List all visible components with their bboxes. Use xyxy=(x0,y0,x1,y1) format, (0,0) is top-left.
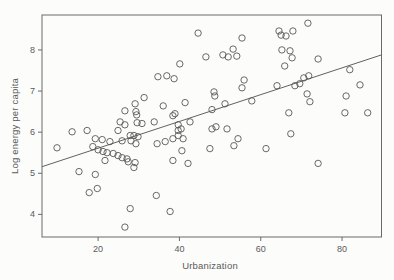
data-point xyxy=(195,30,201,36)
data-point xyxy=(177,61,183,67)
y-axis-label: Log energy per capita xyxy=(9,78,20,174)
data-point xyxy=(304,91,310,97)
data-point xyxy=(171,76,177,82)
data-point xyxy=(94,185,100,191)
data-point xyxy=(122,224,128,230)
data-point xyxy=(153,192,159,198)
data-point xyxy=(104,150,110,156)
y-tick-label: 7 xyxy=(30,86,35,96)
data-point xyxy=(141,94,147,100)
data-point xyxy=(307,99,313,105)
data-point xyxy=(127,205,133,211)
data-point xyxy=(287,48,293,54)
scatter-plot: 2040608045678 xyxy=(0,0,394,280)
data-point xyxy=(235,136,241,142)
x-tick-label: 60 xyxy=(256,244,266,254)
data-point xyxy=(182,99,188,105)
data-point xyxy=(154,141,160,147)
data-point xyxy=(69,129,75,135)
data-point xyxy=(151,119,157,125)
x-tick-label: 40 xyxy=(174,244,184,254)
data-point xyxy=(343,93,349,99)
data-point xyxy=(357,82,363,88)
y-tick-label: 8 xyxy=(30,45,35,55)
data-point xyxy=(102,157,108,163)
data-point xyxy=(180,136,186,142)
data-point xyxy=(241,77,247,83)
data-point xyxy=(234,53,240,59)
data-point xyxy=(54,145,60,151)
data-point xyxy=(132,101,138,107)
data-point xyxy=(185,160,191,166)
data-point xyxy=(249,98,255,104)
data-point xyxy=(315,56,321,62)
data-point xyxy=(207,145,213,151)
data-point xyxy=(133,141,139,147)
data-point xyxy=(290,28,296,34)
data-point xyxy=(86,189,92,195)
x-tick-label: 80 xyxy=(337,244,347,254)
y-tick-label: 6 xyxy=(30,127,35,137)
data-point xyxy=(179,148,185,154)
data-point xyxy=(224,126,230,132)
data-point xyxy=(288,131,294,137)
data-point xyxy=(92,171,98,177)
data-point xyxy=(279,47,285,53)
data-point xyxy=(315,160,321,166)
data-point xyxy=(164,73,170,79)
data-point xyxy=(213,124,219,130)
data-point xyxy=(170,157,176,163)
data-point xyxy=(263,145,269,151)
data-point xyxy=(289,55,295,61)
data-point xyxy=(239,35,245,41)
data-point xyxy=(99,136,105,142)
data-point xyxy=(155,74,161,80)
data-point xyxy=(167,208,173,214)
data-point xyxy=(162,138,168,144)
data-point xyxy=(231,143,237,149)
data-point xyxy=(187,119,193,125)
data-point xyxy=(274,83,280,89)
data-point xyxy=(92,136,98,142)
data-point xyxy=(117,119,123,125)
data-point xyxy=(209,126,215,132)
data-point xyxy=(76,168,82,174)
data-point xyxy=(230,46,236,52)
data-point xyxy=(115,127,121,133)
data-point xyxy=(212,93,218,99)
data-point xyxy=(122,122,128,128)
data-point xyxy=(203,54,209,60)
y-tick-label: 5 xyxy=(30,168,35,178)
data-point xyxy=(135,134,141,140)
data-point xyxy=(286,110,292,116)
data-point xyxy=(107,138,113,144)
data-point xyxy=(342,110,348,116)
data-point xyxy=(365,110,371,116)
data-point xyxy=(160,103,166,109)
data-point xyxy=(239,85,245,91)
data-point xyxy=(84,127,90,133)
x-tick-label: 20 xyxy=(93,244,103,254)
x-axis-label: Urbanization xyxy=(182,260,238,271)
data-point xyxy=(225,54,231,60)
data-point xyxy=(305,20,311,26)
energy-urbanization-scatter-figure: 2040608045678 Urbanization Log energy pe… xyxy=(0,0,394,280)
data-point xyxy=(347,67,353,73)
y-tick-label: 4 xyxy=(30,209,35,219)
data-point xyxy=(282,63,288,69)
data-point xyxy=(122,108,128,114)
